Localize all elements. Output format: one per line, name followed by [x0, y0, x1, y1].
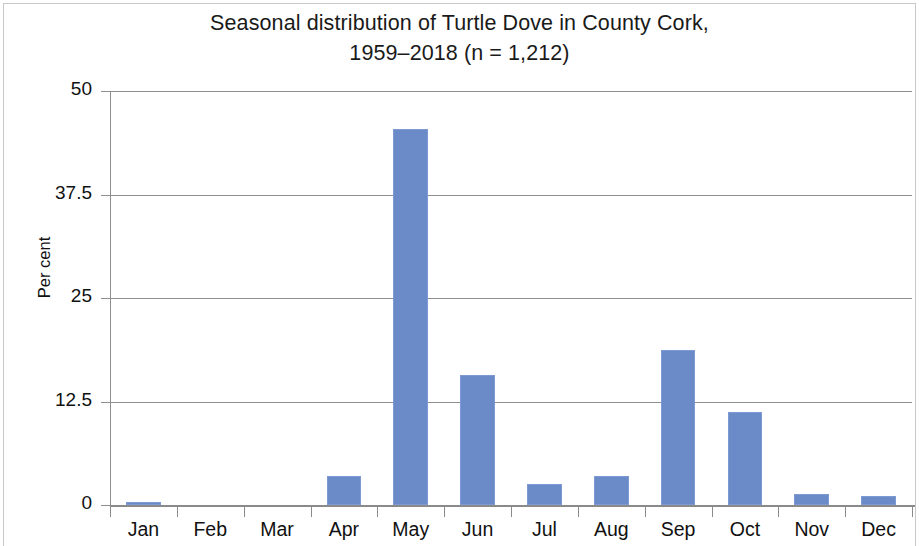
- x-tick-mark-4: [377, 507, 378, 517]
- gridline-y-12.5: [110, 402, 912, 403]
- x-tick-mark-8: [645, 507, 646, 517]
- y-axis-title: Per cent: [35, 208, 54, 328]
- chart-title-line-1: Seasonal distribution of Turtle Dove in …: [0, 8, 919, 38]
- x-tick-label-sep: Sep: [645, 518, 712, 541]
- bar-jun: [460, 375, 495, 505]
- x-tick-mark-6: [511, 507, 512, 517]
- y-tick-label-25: 25: [71, 285, 92, 307]
- x-tick-mark-0: [110, 507, 111, 517]
- bar-may: [393, 129, 428, 505]
- x-tick-mark-3: [311, 507, 312, 517]
- x-tick-mark-9: [712, 507, 713, 517]
- x-tick-mark-10: [778, 507, 779, 517]
- chart-figure: Seasonal distribution of Turtle Dove in …: [0, 0, 919, 546]
- gridline-y-25: [110, 298, 912, 299]
- bar-oct: [728, 412, 763, 505]
- x-tick-label-apr: Apr: [311, 518, 378, 541]
- bar-nov: [794, 494, 829, 505]
- y-tick-mark-37.5: [101, 195, 110, 196]
- x-tick-mark-11: [845, 507, 846, 517]
- bar-dec: [861, 496, 896, 505]
- y-tick-mark-50: [101, 91, 110, 92]
- bar-jul: [527, 484, 562, 505]
- x-tick-label-jan: Jan: [110, 518, 177, 541]
- y-tick-mark-25: [101, 298, 110, 299]
- x-tick-mark-5: [444, 507, 445, 517]
- x-tick-label-jun: Jun: [444, 518, 511, 541]
- x-tick-label-mar: Mar: [244, 518, 311, 541]
- gridline-y-37.5: [110, 195, 912, 196]
- y-tick-label-50: 50: [71, 78, 92, 100]
- gridline-y-50: [110, 91, 912, 92]
- plot-area: [110, 91, 912, 505]
- x-tick-mark-1: [177, 507, 178, 517]
- y-tick-mark-12.5: [101, 402, 110, 403]
- y-tick-label-0: 0: [81, 492, 92, 514]
- x-tick-label-dec: Dec: [845, 518, 912, 541]
- chart-title: Seasonal distribution of Turtle Dove in …: [0, 8, 919, 68]
- chart-title-line-2: 1959–2018 (n = 1,212): [0, 38, 919, 68]
- x-tick-label-oct: Oct: [712, 518, 779, 541]
- bar-aug: [594, 476, 629, 505]
- x-tick-mark-2: [244, 507, 245, 517]
- x-tick-mark-7: [578, 507, 579, 517]
- x-axis-line: [110, 505, 915, 507]
- x-tick-mark-12: [912, 507, 913, 517]
- x-tick-label-nov: Nov: [778, 518, 845, 541]
- x-tick-label-aug: Aug: [578, 518, 645, 541]
- bar-sep: [661, 350, 696, 505]
- x-tick-label-feb: Feb: [177, 518, 244, 541]
- y-tick-label-12.5: 12.5: [55, 389, 92, 411]
- y-tick-label-37.5: 37.5: [55, 182, 92, 204]
- x-tick-label-jul: Jul: [511, 518, 578, 541]
- x-tick-label-may: May: [377, 518, 444, 541]
- bar-apr: [327, 476, 362, 505]
- y-tick-mark-0: [101, 505, 110, 506]
